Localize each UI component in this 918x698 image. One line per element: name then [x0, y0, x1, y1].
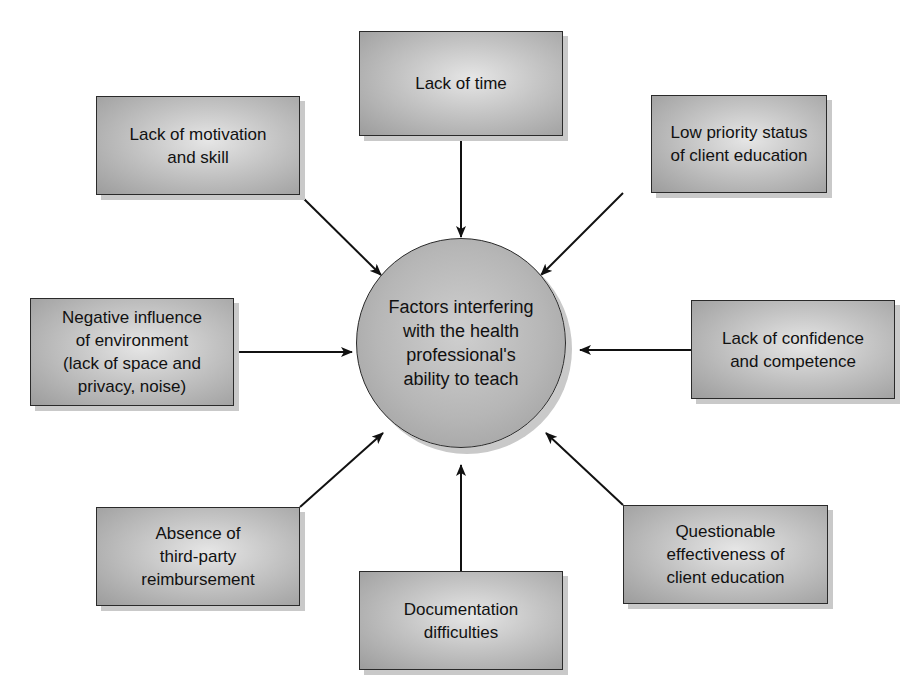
factor-questionable-effectiveness: Questionable effectiveness of client edu… — [623, 505, 828, 604]
factor-documentation-difficulties: Documentation difficulties — [359, 571, 563, 670]
arrow-priority — [541, 193, 623, 275]
arrow-motivation — [300, 195, 381, 275]
factor-lack-of-time: Lack of time — [359, 31, 563, 136]
factor-lack-of-motivation: Lack of motivation and skill — [96, 96, 300, 195]
factors-diagram: Factors interfering with the health prof… — [0, 0, 918, 698]
factor-lack-of-confidence: Lack of confidence and competence — [691, 300, 895, 399]
center-node: Factors interfering with the health prof… — [356, 238, 566, 448]
factor-absence-of-reimbursement: Absence of third-party reimbursement — [96, 507, 300, 606]
arrow-effectiveness — [546, 433, 623, 505]
factor-low-priority: Low priority status of client education — [651, 95, 827, 193]
factor-negative-environment: Negative influence of environment (lack … — [30, 298, 234, 406]
arrow-reimbursement — [300, 433, 383, 507]
